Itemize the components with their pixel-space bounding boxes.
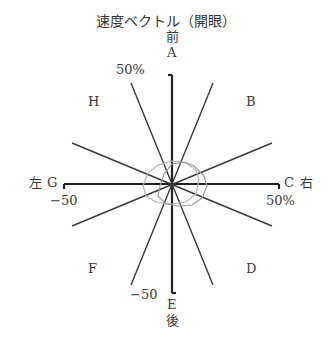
label-axis-d: D (246, 262, 256, 275)
label-scale-right: 50% (266, 194, 295, 207)
label-right: 右 (300, 176, 313, 189)
label-scale-top: 50% (116, 63, 145, 76)
label-axis-b: B (246, 95, 256, 108)
label-axis-e: E (167, 298, 177, 311)
label-scale-left: −50 (50, 194, 77, 207)
label-front: 前 (166, 30, 179, 43)
label-back: 後 (166, 314, 179, 327)
label-axis-h: H (88, 95, 99, 108)
label-scale-bottom: −50 (130, 288, 157, 301)
label-axis-f: F (88, 262, 97, 275)
label-axis-g: G (47, 176, 57, 189)
label-axis-c: C (284, 176, 294, 189)
label-left: 左 (29, 176, 42, 189)
label-axis-a: A (167, 46, 176, 59)
